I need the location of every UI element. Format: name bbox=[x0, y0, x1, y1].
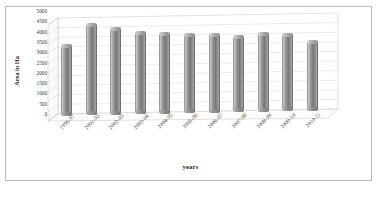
y-axis-tick-labels: 5000450040003500300025002000150010005000 bbox=[20, 9, 47, 117]
bar-top-cap bbox=[110, 27, 121, 31]
bar-top-cap bbox=[209, 33, 220, 37]
bar-2008-09 bbox=[258, 32, 269, 110]
bar-top-cap bbox=[282, 33, 293, 37]
bar-body bbox=[282, 35, 293, 110]
y-axis-tick-label: 5000 bbox=[37, 9, 47, 14]
y-axis-title-text: Area in Ha bbox=[13, 56, 20, 86]
bar-2006-07 bbox=[209, 33, 220, 111]
bar-2004-05 bbox=[159, 32, 170, 112]
bar-body bbox=[258, 34, 269, 110]
y-axis-tick-label: 3000 bbox=[37, 50, 47, 55]
bar-2009-10 bbox=[282, 33, 293, 110]
bar-body bbox=[135, 33, 146, 113]
bar-body bbox=[307, 42, 318, 109]
bar-2001-02 bbox=[86, 23, 97, 113]
bar-bottom-cap bbox=[258, 108, 269, 112]
y-axis-tick-label: 2000 bbox=[37, 71, 47, 76]
bar-body bbox=[159, 34, 170, 112]
y-axis-tick-label: 0 bbox=[44, 112, 47, 117]
bar-2002-03 bbox=[110, 27, 121, 113]
bar-body bbox=[209, 35, 220, 111]
bar-1996-97 bbox=[61, 44, 72, 114]
bar-2007-08 bbox=[233, 35, 244, 111]
bar-body bbox=[110, 29, 121, 113]
y-axis-tick-label: 4000 bbox=[37, 30, 47, 35]
bar-body bbox=[61, 46, 72, 114]
x-axis-title: years bbox=[0, 163, 381, 170]
bar-top-cap bbox=[233, 35, 244, 39]
bar-body bbox=[233, 37, 244, 111]
bar-body bbox=[184, 35, 195, 112]
bar-top-cap bbox=[184, 33, 195, 37]
y-axis-tick-label: 500 bbox=[39, 102, 47, 107]
bar-top-cap bbox=[86, 23, 97, 27]
bar-top-cap bbox=[258, 32, 269, 36]
y-axis-tick-label: 4500 bbox=[37, 19, 47, 24]
y-axis-tick-label: 2500 bbox=[37, 61, 47, 66]
bar-2010-11 bbox=[307, 40, 318, 109]
bar-series bbox=[48, 13, 338, 125]
y-axis-tick-label: 1500 bbox=[37, 81, 47, 86]
bar-top-cap bbox=[61, 44, 72, 48]
bar-2005-06 bbox=[184, 33, 195, 112]
bar-body bbox=[86, 25, 97, 113]
bar-2003-04 bbox=[135, 31, 146, 113]
plot-area bbox=[48, 13, 338, 125]
bar-top-cap bbox=[135, 31, 146, 35]
y-axis-tick-label: 1000 bbox=[37, 91, 47, 96]
chart-figure: Area in Ha 50004500400035003000250020001… bbox=[0, 0, 381, 206]
bar-top-cap bbox=[307, 40, 318, 44]
y-axis-tick-label: 3500 bbox=[37, 40, 47, 45]
